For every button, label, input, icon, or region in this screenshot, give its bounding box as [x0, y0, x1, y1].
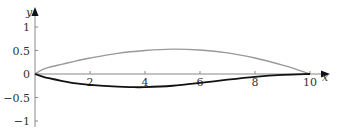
upper-curve	[35, 49, 310, 74]
y-axis-label: y	[25, 6, 33, 19]
x-tick-label: 8	[252, 76, 259, 89]
y-tick-label: −0.5	[3, 92, 30, 105]
y-tick-label: 0	[23, 68, 30, 81]
axes: 24681010.50−0.5−1	[3, 7, 330, 128]
x-axis-label: x	[322, 71, 329, 84]
x-tick-label: 10	[303, 76, 317, 89]
chart: 24681010.50−0.5−1 x y	[0, 0, 352, 137]
y-tick-label: −1	[14, 115, 30, 128]
y-axis-arrow-icon	[32, 7, 39, 16]
y-tick-label: 1	[23, 21, 30, 34]
plot-area: 24681010.50−0.5−1 x y	[0, 0, 352, 137]
curves	[35, 49, 310, 87]
x-tick-label: 2	[87, 76, 94, 89]
y-tick-label: 0.5	[13, 45, 31, 58]
lower-curve	[35, 74, 310, 87]
